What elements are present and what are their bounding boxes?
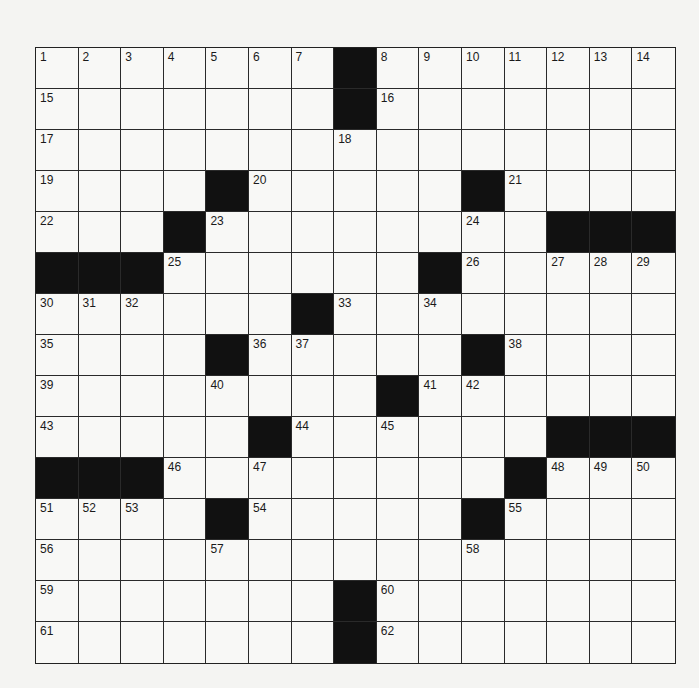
grid-cell[interactable] [632,89,675,130]
grid-cell[interactable] [505,130,548,171]
grid-cell[interactable] [121,89,164,130]
grid-cell[interactable] [419,89,462,130]
grid-cell[interactable] [79,417,122,458]
grid-cell[interactable] [462,417,505,458]
grid-cell[interactable] [505,417,548,458]
grid-cell[interactable] [590,622,633,663]
grid-cell[interactable] [121,335,164,376]
grid-cell[interactable]: 13 [590,48,633,89]
grid-cell[interactable] [632,171,675,212]
grid-cell[interactable]: 60 [377,581,420,622]
grid-cell[interactable]: 18 [334,130,377,171]
grid-cell[interactable] [334,417,377,458]
grid-cell[interactable] [164,130,207,171]
grid-cell[interactable] [632,376,675,417]
grid-cell[interactable] [590,89,633,130]
grid-cell[interactable] [79,540,122,581]
grid-cell[interactable] [206,458,249,499]
grid-cell[interactable] [377,540,420,581]
grid-cell[interactable] [505,212,548,253]
grid-cell[interactable] [547,335,590,376]
grid-cell[interactable]: 17 [36,130,79,171]
grid-cell[interactable] [292,89,335,130]
grid-cell[interactable] [249,130,292,171]
grid-cell[interactable] [164,294,207,335]
grid-cell[interactable] [121,622,164,663]
grid-cell[interactable]: 39 [36,376,79,417]
grid-cell[interactable] [292,212,335,253]
grid-cell[interactable] [334,335,377,376]
grid-cell[interactable] [590,130,633,171]
grid-cell[interactable] [590,335,633,376]
grid-cell[interactable] [249,622,292,663]
grid-cell[interactable] [249,89,292,130]
grid-cell[interactable] [79,171,122,212]
grid-cell[interactable]: 11 [505,48,548,89]
grid-cell[interactable]: 34 [419,294,462,335]
grid-cell[interactable]: 4 [164,48,207,89]
grid-cell[interactable] [505,89,548,130]
grid-cell[interactable] [419,622,462,663]
grid-cell[interactable]: 1 [36,48,79,89]
grid-cell[interactable]: 41 [419,376,462,417]
grid-cell[interactable] [547,294,590,335]
grid-cell[interactable]: 45 [377,417,420,458]
grid-cell[interactable]: 56 [36,540,79,581]
grid-cell[interactable] [547,499,590,540]
grid-cell[interactable]: 44 [292,417,335,458]
grid-cell[interactable] [121,130,164,171]
grid-cell[interactable] [164,376,207,417]
grid-cell[interactable] [164,540,207,581]
grid-cell[interactable] [292,499,335,540]
grid-cell[interactable] [377,499,420,540]
grid-cell[interactable]: 21 [505,171,548,212]
grid-cell[interactable] [462,294,505,335]
grid-cell[interactable] [334,499,377,540]
grid-cell[interactable] [547,130,590,171]
grid-cell[interactable] [292,458,335,499]
grid-cell[interactable] [334,458,377,499]
grid-cell[interactable]: 15 [36,89,79,130]
grid-cell[interactable] [419,499,462,540]
grid-cell[interactable] [462,130,505,171]
grid-cell[interactable]: 32 [121,294,164,335]
grid-cell[interactable] [590,294,633,335]
grid-cell[interactable] [377,253,420,294]
grid-cell[interactable] [590,376,633,417]
grid-cell[interactable] [590,499,633,540]
grid-cell[interactable] [79,622,122,663]
grid-cell[interactable] [121,581,164,622]
grid-cell[interactable] [206,622,249,663]
grid-cell[interactable] [249,294,292,335]
grid-cell[interactable] [590,171,633,212]
grid-cell[interactable] [547,540,590,581]
grid-cell[interactable] [632,540,675,581]
grid-cell[interactable]: 25 [164,253,207,294]
grid-cell[interactable] [79,130,122,171]
grid-cell[interactable]: 33 [334,294,377,335]
grid-cell[interactable] [292,581,335,622]
grid-cell[interactable] [377,212,420,253]
grid-cell[interactable]: 53 [121,499,164,540]
grid-cell[interactable] [164,171,207,212]
grid-cell[interactable]: 42 [462,376,505,417]
grid-cell[interactable] [590,540,633,581]
grid-cell[interactable] [632,581,675,622]
grid-cell[interactable]: 58 [462,540,505,581]
grid-cell[interactable]: 51 [36,499,79,540]
grid-cell[interactable] [206,253,249,294]
grid-cell[interactable] [505,581,548,622]
grid-cell[interactable] [79,212,122,253]
grid-cell[interactable] [292,540,335,581]
grid-cell[interactable]: 24 [462,212,505,253]
grid-cell[interactable] [462,458,505,499]
grid-cell[interactable]: 35 [36,335,79,376]
grid-cell[interactable] [462,89,505,130]
grid-cell[interactable] [505,622,548,663]
grid-cell[interactable]: 43 [36,417,79,458]
grid-cell[interactable] [547,581,590,622]
grid-cell[interactable] [206,130,249,171]
grid-cell[interactable]: 47 [249,458,292,499]
grid-cell[interactable] [79,376,122,417]
grid-cell[interactable]: 9 [419,48,462,89]
